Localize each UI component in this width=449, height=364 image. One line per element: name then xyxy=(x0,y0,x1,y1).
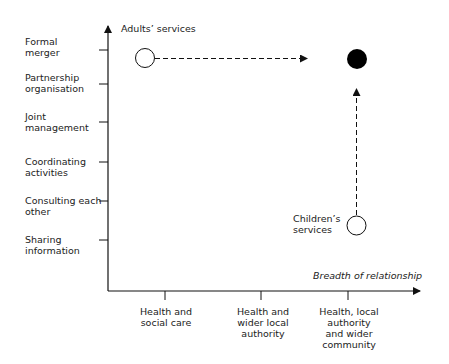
childrens-services-label-line2: services xyxy=(293,224,332,235)
x-label-health-la-wider-community: Health, localauthorityand widercommunity xyxy=(319,306,378,350)
x-label-health-social-care: Health andsocial care xyxy=(140,306,192,328)
x-axis-title: Breadth of relationship xyxy=(313,270,422,281)
diagram-canvas xyxy=(0,0,449,364)
y-axis xyxy=(99,26,108,291)
y-label-formal-merger: Formalmerger xyxy=(25,36,60,58)
y-label-consulting-each-other: Consulting eachother xyxy=(25,195,101,217)
adults-services-point xyxy=(136,49,155,68)
y-label-coordinating-activities: Coordinatingactivities xyxy=(25,156,86,178)
x-axis xyxy=(108,291,420,300)
childrens-services-point xyxy=(347,216,366,235)
adults-services-label: Adults’ services xyxy=(121,23,196,34)
y-label-sharing-information: Sharinginformation xyxy=(25,234,80,256)
x-label-health-wider-local-authority: Health andwider localauthority xyxy=(237,306,289,339)
y-label-partnership-organisation: Partnershiporganisation xyxy=(25,72,84,94)
childrens-services-label-line1: Children’s xyxy=(293,213,341,224)
y-label-joint-management: Jointmanagement xyxy=(25,111,89,133)
target-point xyxy=(347,49,367,69)
